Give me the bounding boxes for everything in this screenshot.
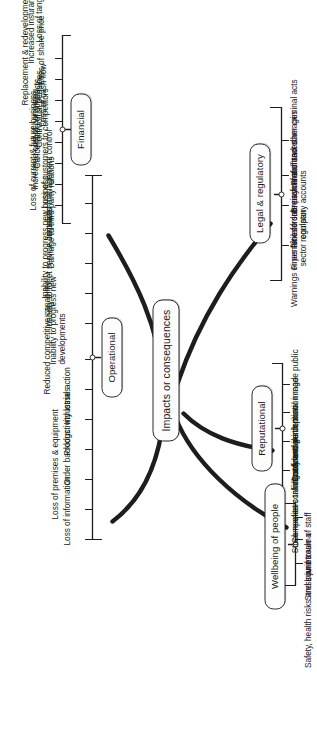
- hub-icon-operational: [89, 354, 95, 360]
- branch-node-legal[interactable]: Legal & regulatory: [249, 143, 270, 243]
- branch-node-wellbeing[interactable]: Wellbeing of people: [264, 483, 285, 609]
- mind-map-canvas: Impacts or consequences Operational Loss…: [0, 0, 317, 735]
- hub-icon-legal: [278, 191, 284, 197]
- hub-icon-reputational: [279, 425, 285, 431]
- leaf-legal-4: Fraud and other criminal acts: [289, 79, 298, 221]
- leaf-wellbeing-2: Low morale of staff: [303, 512, 312, 604]
- leaf-reputational-4: Confidential information made public: [290, 349, 299, 507]
- hub-icon-financial: [59, 126, 65, 132]
- branch-node-operational[interactable]: Operational: [101, 317, 122, 397]
- branch-node-reputational[interactable]: Reputational: [251, 385, 272, 471]
- branch-node-financial[interactable]: Financial: [70, 93, 91, 165]
- center-branch-curves: [108, 223, 286, 527]
- center-node-impacts[interactable]: Impacts or consequences: [152, 299, 179, 441]
- leaf-financial-8: Loss of tangible assets: [34, 0, 43, 42]
